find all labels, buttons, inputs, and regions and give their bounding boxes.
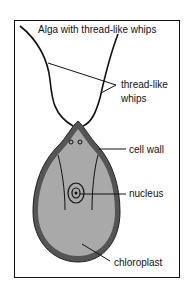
label-nucleus: nucleus: [129, 188, 163, 199]
label-whips-line2: whips: [121, 93, 147, 104]
label-chloroplast: chloroplast: [114, 257, 162, 268]
diagram-title: Alga with thread-like whips: [38, 24, 156, 35]
left-whip: [20, 26, 73, 126]
label-whips-line1: thread-like: [121, 79, 168, 90]
label-cell-wall: cell wall: [129, 144, 164, 155]
